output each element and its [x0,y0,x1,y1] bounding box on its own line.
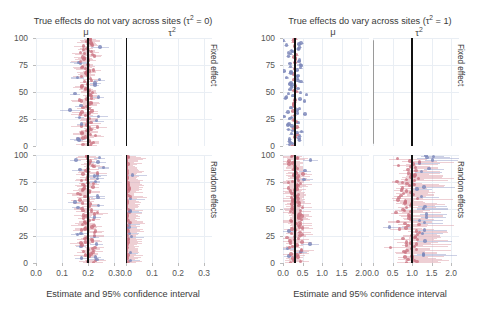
estimate-point [93,81,96,84]
y-axis-tick-label: 25 [243,114,275,124]
y-axis-tick-mark [33,155,36,156]
confidence-interval-bar [414,255,458,256]
x-axis-tick-mark [152,263,153,266]
estimate-point [287,128,290,131]
estimate-point [413,173,416,176]
row-label-random-effects: Random effects [456,161,465,218]
y-axis-tick-mark [33,38,36,39]
estimate-point [92,141,95,144]
y-axis-tick-mark [33,65,36,66]
x-axis-tick-mark [342,263,343,266]
estimate-point [283,39,285,42]
subplot-mu-fixed [36,38,122,146]
estimate-point [397,164,400,167]
confidence-interval-bar [398,259,442,260]
x-axis-label: Estimate and 95% confidence interval [247,289,493,299]
y-axis-tick-label: 100 [243,33,275,43]
estimate-point [295,253,298,256]
y-axis-tick-label: 50 [243,87,275,97]
estimate-point [96,125,99,128]
estimate-point [283,69,286,72]
estimate-point [80,84,83,87]
true-value-line [411,38,413,146]
estimate-point [94,229,97,232]
plot-area [36,38,214,263]
panel-title: True effects do not vary across sites (τ… [0,14,246,26]
estimate-point [93,246,96,249]
estimate-point [98,78,101,81]
estimate-point [80,131,83,134]
y-axis-tick-mark [33,182,36,183]
estimate-point [298,231,301,234]
estimate-point [299,63,302,66]
estimate-point [287,92,290,95]
estimate-point [296,200,299,203]
estimate-point [421,232,424,235]
estimate-point [76,192,79,195]
y-axis-tick-label: 75 [0,177,28,187]
x-axis-tick-mark [62,263,63,266]
estimate-point [98,156,101,159]
y-axis-tick-label: 75 [243,60,275,70]
estimate-point [73,200,76,203]
estimate-point [425,215,428,218]
estimate-point [286,110,289,113]
estimate-point [405,206,408,209]
estimate-point [431,158,434,161]
y-axis-tick-label: 75 [0,60,28,70]
estimate-point [289,70,292,73]
x-axis-tick-mark [204,263,205,266]
estimate-point [89,101,92,104]
y-axis-tick-mark [33,209,36,210]
estimate-point [301,172,304,175]
y-axis-tick-label: 100 [0,33,28,43]
gridline-horizontal [36,38,122,39]
confidence-interval-bar [395,252,437,253]
estimate-point [401,208,404,211]
y-axis-tick-mark [280,119,283,120]
estimate-point [93,234,96,237]
confidence-interval-bar [415,187,455,188]
y-axis-tick-mark [280,146,283,147]
estimate-point [81,201,84,204]
estimate-point [288,137,291,140]
estimate-point [413,179,416,182]
y-axis-tick-label: 0 [0,258,28,268]
x-axis-tick-mark [451,263,452,266]
column-header-tau2: τ2 [377,26,461,38]
estimate-point [394,211,397,214]
x-axis-tick-mark [393,263,394,266]
y-axis-tick-mark [280,92,283,93]
panel-title: True effects do vary across sites (τ2 = … [247,14,493,26]
true-value-line [87,155,89,263]
confidence-interval-bar [399,215,443,216]
confidence-interval-bar [397,262,441,263]
gridline-horizontal [373,65,459,66]
x-axis-tick-mark [432,263,433,266]
estimate-point [79,232,82,235]
estimate-point [287,122,290,125]
estimate-point [76,137,79,140]
estimate-point [76,206,79,209]
estimate-point [405,243,408,246]
estimate-point [82,44,85,47]
x-axis-tick-mark [36,263,37,266]
estimate-point [80,256,83,259]
estimate-point [296,111,299,114]
estimate-point [415,229,418,232]
estimate-point [301,226,304,229]
estimate-point [415,187,418,190]
estimate-point [396,220,399,223]
estimate-point [403,222,406,225]
estimate-point [96,194,99,197]
estimate-point [94,255,97,258]
panel-tau2-one: True effects do vary across sites (τ2 = … [247,0,493,310]
gridline-horizontal [373,92,459,93]
confidence-interval-bar [417,158,459,159]
estimate-point [422,185,425,188]
estimate-point [406,258,409,261]
row-label-random-effects: Random effects [209,161,218,218]
x-axis-tick-mark [373,263,374,266]
confidence-interval-bar [408,231,447,232]
confidence-interval-bar [409,240,448,241]
